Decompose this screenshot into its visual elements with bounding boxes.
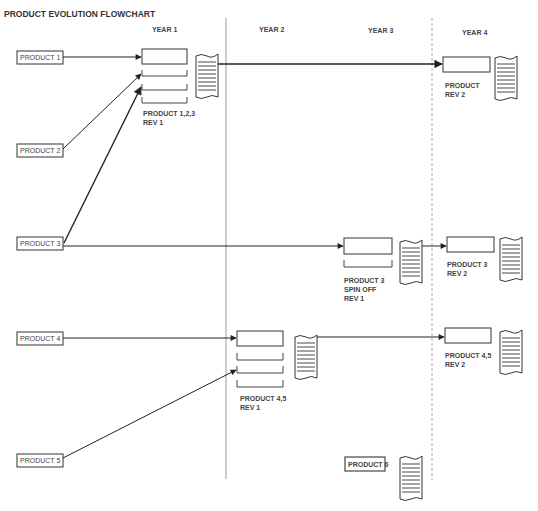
document-icon — [400, 240, 422, 285]
rev1-product-123-block[interactable] — [142, 49, 187, 103]
year-header-4: YEAR 4 — [462, 29, 487, 36]
spinoff-label-2: SPIN OFF — [344, 286, 377, 293]
svg-text:PRODUCT 5: PRODUCT 5 — [20, 457, 60, 464]
rev1-product-45-label-1: PRODUCT 4,5 — [240, 395, 286, 403]
document-icon — [500, 330, 522, 375]
product-6-box[interactable]: PRODUCT 6 — [345, 457, 389, 471]
rev1-product-45-label-2: REV 1 — [240, 404, 260, 411]
rev2-product-3-label-1: PRODUCT 3 — [447, 261, 488, 268]
svg-text:PRODUCT 3: PRODUCT 3 — [20, 240, 60, 247]
svg-text:PRODUCT 2: PRODUCT 2 — [20, 147, 60, 154]
rev1-product-123-label-1: PRODUCT 1,2,3 — [143, 110, 195, 118]
rev2-product-45-label-1: PRODUCT 4,5 — [445, 352, 491, 360]
product-1-box[interactable]: PRODUCT 1 — [17, 51, 63, 64]
product-2-box[interactable]: PRODUCT 2 — [17, 144, 63, 157]
rev1-product-45-block[interactable] — [237, 331, 283, 387]
document-icon — [295, 335, 317, 380]
rev2-product-label-1: PRODUCT — [445, 82, 480, 89]
document-icon — [495, 56, 517, 101]
svg-text:PRODUCT 4: PRODUCT 4 — [20, 335, 60, 342]
rev2-product-block[interactable] — [443, 57, 490, 72]
document-icon — [196, 54, 218, 99]
svg-text:PRODUCT 6: PRODUCT 6 — [348, 461, 389, 468]
rev2-product-45-block[interactable] — [445, 328, 491, 343]
year-header-2: YEAR 2 — [259, 26, 284, 33]
rev2-product-45-label-2: REV 2 — [445, 361, 465, 368]
rev2-product-label-2: REV 2 — [445, 91, 465, 98]
product-3-box[interactable]: PRODUCT 3 — [17, 237, 63, 250]
product-5-box[interactable]: PRODUCT 5 — [17, 454, 63, 467]
rev1-product-123-label-2: REV 1 — [143, 119, 163, 126]
year-header-1: YEAR 1 — [152, 26, 177, 33]
spinoff-product-3-block[interactable] — [344, 238, 392, 267]
spinoff-label-3: REV 1 — [344, 295, 364, 302]
spinoff-label-1: PRODUCT 3 — [344, 277, 385, 284]
product-4-box[interactable]: PRODUCT 4 — [17, 332, 63, 345]
flowchart-canvas: PRODUCT EVOLUTION FLOWCHART YEAR 1 YEAR … — [0, 0, 538, 511]
document-icon — [500, 237, 522, 282]
svg-text:PRODUCT 1: PRODUCT 1 — [20, 54, 60, 61]
document-icon — [400, 456, 422, 501]
rev2-product-3-block[interactable] — [447, 237, 494, 252]
arrow-product5-to-rev1 — [63, 370, 236, 458]
year-header-3: YEAR 3 — [368, 27, 393, 34]
rev2-product-3-label-2: REV 2 — [447, 270, 467, 277]
diagram-title: PRODUCT EVOLUTION FLOWCHART — [4, 9, 156, 19]
